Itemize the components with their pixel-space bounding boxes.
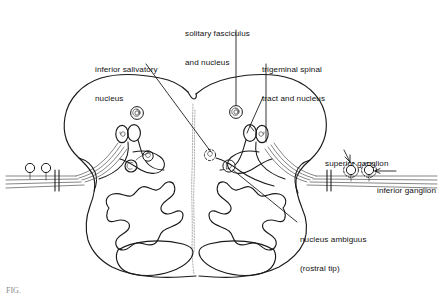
label-trigeminal-line1: trigeminal spinal [262,65,325,75]
label-trigeminal-line2: tract and nucleus [262,94,325,104]
label-solitary-fasciculus-and-nucleus: solitary fasciculus and nucleus [185,10,250,87]
label-nucleus-ambiguus-line1: nucleus ambiguus [300,235,367,245]
nerve-rootlets-left [6,170,84,191]
inferior-olivary-nucleus-left [106,182,183,250]
pyramid-left [116,241,193,276]
label-inferior-salivatory-nucleus: inferior salivatory nucleus [95,46,158,123]
label-solitary-line2: and nucleus [185,58,250,68]
figure-root: solitary fasciculus and nucleus inferior… [0,0,443,295]
figure-caption: FIG. [6,286,25,295]
label-trigeminal-spinal-tract-and-nucleus: trigeminal spinal tract and nucleus [262,46,325,123]
label-inferior-ganglion-line1: inferior ganglion [377,186,436,196]
label-inferior-ganglion: inferior ganglion [377,167,436,215]
label-nucleus-ambiguus: nucleus ambiguus (rostral tip) [300,216,367,293]
solitary-nucleus-right [230,106,243,119]
trigeminal-nucleus-left [99,125,164,179]
label-inferior-salivatory-line1: inferior salivatory [95,65,158,75]
leader-nucleus-ambiguus [233,170,297,222]
inferior-olivary-nucleus-right [209,182,286,250]
ganglion-marker-left-b [41,163,50,180]
ganglion-marker-left-a [25,163,34,179]
label-inferior-salivatory-line2: nucleus [95,94,158,104]
label-nucleus-ambiguus-line2: (rostral tip) [300,264,367,274]
label-solitary-line1: solitary fasciculus [185,29,250,39]
efferent-fibers-left [76,143,164,182]
pyramid-right [199,241,276,276]
